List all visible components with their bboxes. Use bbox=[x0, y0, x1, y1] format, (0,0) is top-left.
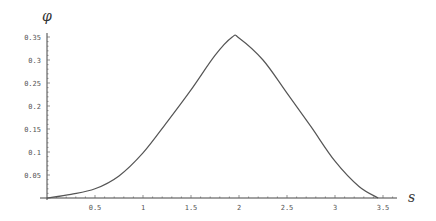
y-tick-label: 0.15 bbox=[24, 126, 41, 134]
y-tick-label: 0.05 bbox=[24, 172, 41, 180]
x-tick-label: 3.5 bbox=[377, 204, 390, 212]
x-tick-label: 2 bbox=[237, 204, 241, 212]
ticks: 0.511.522.533.50.050.10.150.20.250.30.35 bbox=[24, 34, 392, 213]
axes bbox=[40, 33, 397, 200]
x-tick-label: 1.5 bbox=[185, 204, 198, 212]
y-axis-title: φ bbox=[42, 8, 52, 24]
x-axis-title: s bbox=[408, 189, 415, 205]
y-tick-label: 0.25 bbox=[24, 80, 41, 88]
x-tick-label: 3 bbox=[333, 204, 337, 212]
y-tick-label: 0.1 bbox=[28, 149, 41, 157]
chart: 0.511.522.533.50.050.10.150.20.250.30.35… bbox=[0, 0, 436, 221]
x-tick-label: 2.5 bbox=[281, 204, 294, 212]
x-tick-label: 1 bbox=[141, 204, 145, 212]
x-tick-label: 0.5 bbox=[89, 204, 102, 212]
y-tick-label: 0.2 bbox=[28, 103, 41, 111]
y-tick-label: 0.3 bbox=[28, 57, 41, 65]
series-line-phi bbox=[47, 35, 378, 198]
y-tick-label: 0.35 bbox=[24, 34, 41, 42]
series bbox=[47, 35, 378, 198]
